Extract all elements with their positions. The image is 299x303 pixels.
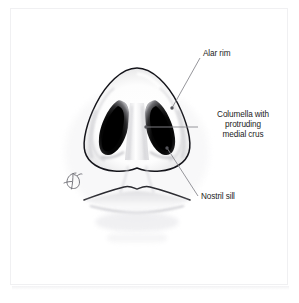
nose-basal-view-illustration: [0, 0, 299, 303]
leader-dot-nostril-sill: [165, 146, 168, 149]
label-columella-line3: medial crus: [200, 130, 286, 140]
label-alar-rim: Alar rim: [203, 49, 230, 59]
figure-container: Alar rim Columella with protruding media…: [0, 0, 299, 303]
chin-shadow: [107, 229, 167, 247]
leader-dot-columella: [144, 125, 147, 128]
label-columella-line1: Columella with: [200, 110, 286, 120]
leader-dot-alar-rim: [170, 106, 173, 109]
label-columella-line2: protruding: [200, 120, 286, 130]
label-nostril-sill-text: Nostril sill: [201, 192, 235, 201]
label-nostril-sill: Nostril sill: [201, 192, 235, 202]
label-columella: Columella with protruding medial crus: [200, 110, 286, 141]
leader-line-alar-rim: [172, 58, 200, 108]
artist-monogram-icon: [60, 170, 84, 192]
label-alar-rim-text: Alar rim: [203, 49, 230, 58]
